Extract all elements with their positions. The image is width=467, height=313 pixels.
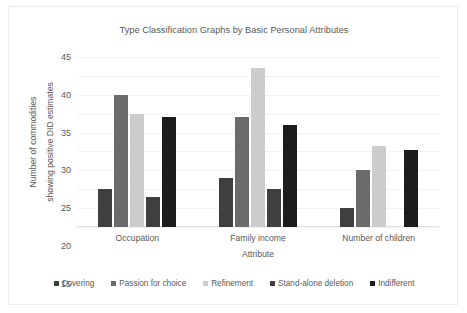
y-axis-tick-label: 35 (61, 128, 71, 138)
legend-swatch-icon (203, 281, 208, 286)
x-axis-title: Attribute (77, 249, 439, 259)
bar (130, 114, 144, 227)
legend-swatch-icon (270, 281, 275, 286)
legend-item[interactable]: Stand-alone deletion (270, 279, 353, 288)
bar (251, 68, 265, 227)
bar (162, 117, 176, 227)
chart-legend: CoveringPassion for choiceRefinementStan… (9, 279, 459, 288)
chart-title: Type Classification Graphs by Basic Pers… (9, 25, 459, 35)
legend-item[interactable]: Indifferent (370, 279, 414, 288)
bar (267, 189, 281, 227)
legend-item[interactable]: Passion for choice (111, 279, 186, 288)
bar (372, 146, 386, 227)
plot-area: 051015202530354045 (77, 57, 439, 227)
legend-label: Indifferent (378, 279, 414, 288)
y-axis-tick-label: 30 (61, 165, 71, 175)
y-axis-tick-label: 25 (61, 203, 71, 213)
bar (235, 117, 249, 227)
bar (146, 197, 160, 227)
x-axis-category-label: Family income (198, 233, 319, 243)
legend-label: Passion for choice (119, 279, 186, 288)
legend-label: Stand-alone deletion (278, 279, 353, 288)
gridline: 0 (77, 227, 439, 228)
y-axis-tick-label: 40 (61, 90, 71, 100)
bar (340, 208, 354, 227)
y-axis-title: Number of commodities showing positive D… (25, 51, 59, 233)
chart-frame: Type Classification Graphs by Basic Pers… (8, 6, 458, 305)
legend-swatch-icon (111, 281, 116, 286)
legend-swatch-icon (54, 281, 59, 286)
y-axis-tick-label: 45 (61, 52, 71, 62)
bar (114, 95, 128, 227)
bar (356, 170, 370, 227)
x-axis-category-label: Number of children (318, 233, 439, 243)
x-axis-category-label: Occupation (77, 233, 198, 243)
legend-swatch-icon (370, 281, 375, 286)
legend-item[interactable]: Covering (54, 279, 95, 288)
bar (283, 125, 297, 227)
bar (404, 150, 418, 227)
bar (219, 178, 233, 227)
bar (98, 189, 112, 227)
legend-label: Covering (62, 279, 95, 288)
legend-item[interactable]: Refinement (203, 279, 253, 288)
legend-label: Refinement (211, 279, 253, 288)
gridline: 45 (77, 57, 439, 58)
y-axis-tick-label: 20 (61, 241, 71, 251)
